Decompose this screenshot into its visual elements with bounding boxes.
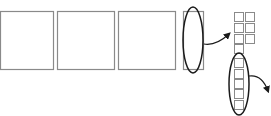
column-highlight-ellipse [229, 53, 249, 115]
column-square [235, 70, 244, 79]
small-square [235, 13, 244, 22]
column-square [235, 90, 244, 99]
column-square [235, 59, 244, 68]
ellipses-and-arrows-group [183, 7, 268, 115]
small-square [246, 35, 255, 44]
curved-arrow-icon [204, 34, 229, 44]
column-square [235, 101, 244, 110]
small-square [235, 24, 244, 33]
curved-arrow-icon [249, 76, 268, 91]
large-square [1, 12, 54, 70]
large-squares-group [1, 12, 176, 70]
diagram-canvas [0, 0, 271, 116]
large-square [58, 12, 115, 70]
small-grid-group [235, 13, 255, 54]
small-square [246, 24, 255, 33]
small-square [235, 45, 244, 54]
column-square [235, 80, 244, 89]
small-square [246, 13, 255, 22]
large-square [119, 12, 176, 70]
small-square [235, 35, 244, 44]
column-squares-group [235, 59, 244, 110]
strip-highlight-ellipse [183, 7, 203, 73]
